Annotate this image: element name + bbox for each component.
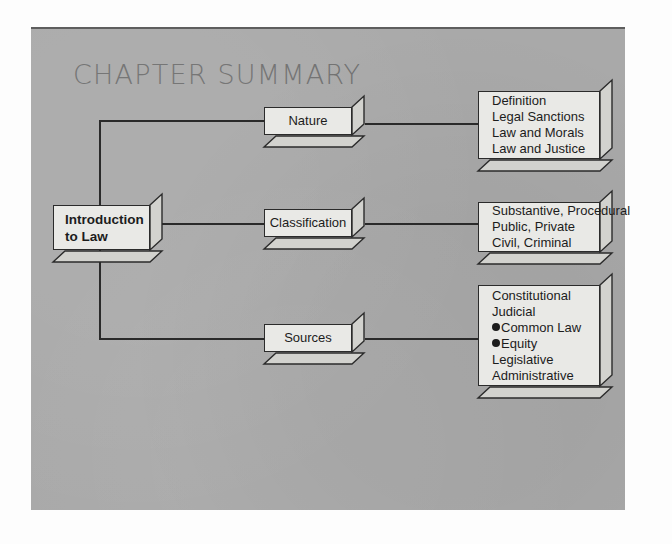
node-label-line2: to Law <box>65 228 149 245</box>
connector-classification-to-details <box>365 223 478 225</box>
node-face: Sources <box>264 324 352 352</box>
detail-item: Judicial <box>492 304 599 320</box>
detail-item: Public, Private <box>492 219 599 235</box>
connector-trunk-lower <box>99 250 101 339</box>
detail-item: Legal Sanctions <box>492 109 599 125</box>
node-extrusion-bottom <box>264 135 352 148</box>
detail-item: Law and Justice <box>492 141 599 157</box>
chapter-summary-panel: CHAPTER SUMMARY <box>31 27 625 510</box>
node-details-nature[interactable]: Definition Legal Sanctions Law and Moral… <box>478 91 600 159</box>
node-introduction-to-law[interactable]: Introduction to Law <box>53 205 150 250</box>
page-title: CHAPTER SUMMARY <box>73 59 361 90</box>
detail-item: Constitutional <box>492 288 599 304</box>
node-face: Introduction to Law <box>53 205 150 250</box>
detail-item: Substantive, Procedural <box>492 203 599 219</box>
node-label: Classification <box>270 215 347 231</box>
detail-item: Common Law <box>492 320 599 336</box>
node-extrusion-bottom <box>264 237 352 250</box>
node-label: Nature <box>288 113 327 129</box>
node-extrusion-bottom <box>478 252 600 265</box>
node-extrusion-bottom <box>53 250 150 263</box>
node-extrusion-side <box>352 107 365 135</box>
bullet-icon <box>492 339 500 347</box>
connector-nature-to-details <box>365 123 478 125</box>
node-face: Substantive, Procedural Public, Private … <box>478 202 600 252</box>
detail-item: Definition <box>492 93 599 109</box>
node-extrusion-bottom <box>264 352 352 365</box>
bullet-icon <box>492 323 500 331</box>
node-face: Classification <box>264 209 352 237</box>
node-label: Sources <box>284 330 332 346</box>
node-category-sources[interactable]: Sources <box>264 324 352 352</box>
node-extrusion-side <box>352 324 365 352</box>
node-face: Nature <box>264 107 352 135</box>
detail-item: Administrative <box>492 368 599 384</box>
node-extrusion-bottom <box>478 159 600 172</box>
node-extrusion-side <box>150 205 163 250</box>
node-extrusion-side <box>352 209 365 237</box>
node-extrusion-side <box>600 91 613 159</box>
detail-item: Civil, Criminal <box>492 235 599 251</box>
detail-item: Legislative <box>492 352 599 368</box>
node-extrusion-bottom <box>478 386 600 399</box>
node-details-sources[interactable]: Constitutional Judicial Common Law Equit… <box>478 285 600 386</box>
node-details-classification[interactable]: Substantive, Procedural Public, Private … <box>478 202 600 252</box>
detail-item: Law and Morals <box>492 125 599 141</box>
node-extrusion-side <box>600 285 613 386</box>
node-category-classification[interactable]: Classification <box>264 209 352 237</box>
detail-item: Equity <box>492 336 599 352</box>
node-category-nature[interactable]: Nature <box>264 107 352 135</box>
node-face: Constitutional Judicial Common Law Equit… <box>478 285 600 386</box>
node-face: Definition Legal Sanctions Law and Moral… <box>478 91 600 159</box>
page-canvas: CHAPTER SUMMARY <box>0 0 672 544</box>
connector-sources-to-details <box>365 338 478 340</box>
node-label-line1: Introduction <box>65 211 149 228</box>
